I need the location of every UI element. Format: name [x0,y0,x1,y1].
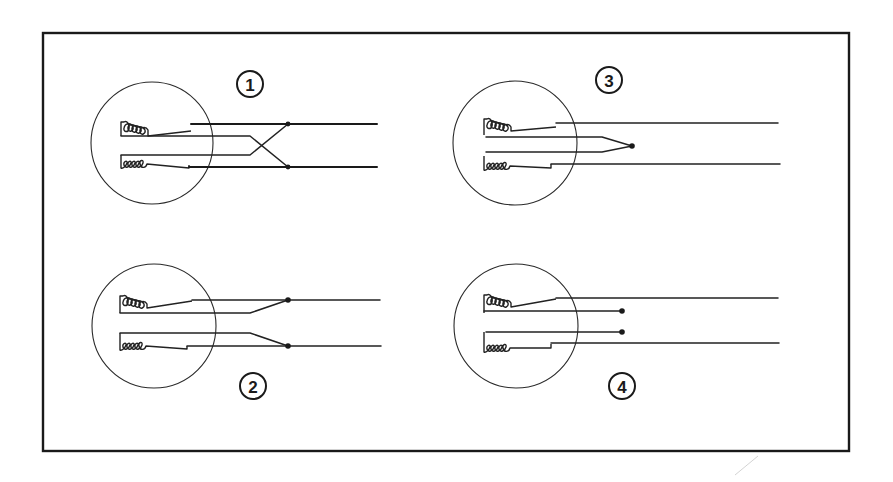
panel-label-3: 3 [596,67,622,93]
panel-2: 2 [92,264,381,399]
coil-bottom [120,333,187,350]
coil-bottom [484,332,551,352]
svg-text:1: 1 [245,76,254,95]
coil-top [484,119,556,135]
svg-text:4: 4 [617,378,627,397]
coil-top [120,296,192,313]
panel-label-2: 2 [240,373,266,399]
diagram-frame [43,33,849,451]
housing-circle [453,81,577,205]
housing-circle [91,82,213,204]
panel-label-4: 4 [609,373,635,399]
panel-label-1: 1 [237,71,263,97]
svg-text:2: 2 [248,378,257,397]
coil-bottom [121,155,189,168]
svg-text:3: 3 [604,72,613,91]
coil-top [121,122,191,136]
paper-mark [735,456,758,475]
housing-circle [454,264,578,388]
coil-top [484,295,556,313]
panel-3: 3 [453,67,780,205]
housing-circle [92,264,216,388]
wiring-diagram: 1 3 [0,0,893,482]
panel-1: 1 [91,71,377,204]
coil-bottom [484,156,551,170]
panel-4: 4 [454,264,779,399]
